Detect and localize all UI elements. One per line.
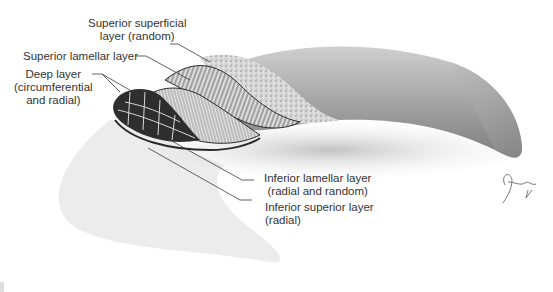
artist-signature bbox=[503, 175, 536, 203]
label-inferior-superior: Inferior superior layer (radial) bbox=[265, 201, 374, 227]
edge-mark bbox=[0, 282, 4, 292]
label-inferior-lamellar: Inferior lamellar layer (radial and rand… bbox=[264, 172, 371, 198]
label-superior-superficial: Superior superficial layer (random) bbox=[88, 17, 186, 43]
meniscus-illustration bbox=[0, 0, 553, 292]
label-deep-layer: Deep layer (circumferential and radial) bbox=[14, 68, 93, 107]
label-superior-lamellar: Superior lamellar layer bbox=[23, 50, 138, 63]
